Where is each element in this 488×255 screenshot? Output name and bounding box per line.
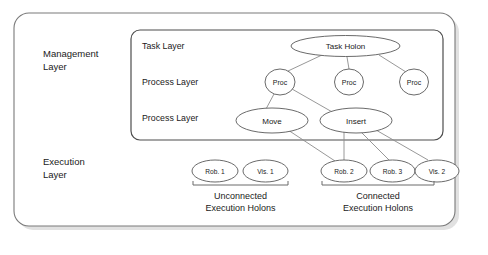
node-task-holon[interactable] [291, 36, 400, 57]
node-rob-2[interactable] [321, 160, 367, 182]
inner-label-process-layer-1: Process Layer [142, 77, 198, 87]
inner-label-process-layer-2: Process Layer [142, 113, 198, 123]
node-proc-1[interactable] [265, 69, 295, 95]
node-vis-1[interactable] [243, 160, 288, 182]
node-move[interactable] [236, 108, 308, 133]
layer-label-management: Management Layer [43, 48, 98, 73]
node-vis-2[interactable] [415, 160, 459, 182]
inner-label-task-layer: Task Layer [142, 41, 185, 51]
node-proc-2[interactable] [335, 69, 364, 95]
node-rob-1[interactable] [192, 160, 238, 182]
caption-connected-execution-holons: Connected Execution Holons [343, 190, 413, 214]
caption-unconnected-execution-holons: Unconnected Execution Holons [205, 190, 275, 214]
diagram-svg [0, 0, 488, 255]
diagram-canvas: Management Layer Execution Layer Task La… [0, 0, 488, 255]
node-insert[interactable] [320, 108, 392, 133]
node-proc-3[interactable] [400, 69, 429, 95]
node-rob-3[interactable] [370, 160, 415, 182]
layer-label-execution: Execution Layer [43, 156, 85, 181]
